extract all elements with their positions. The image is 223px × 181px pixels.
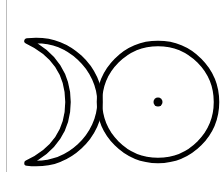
sun-center-dot-icon: [154, 98, 163, 107]
crescent-moon-icon: [27, 41, 100, 164]
moon-and-sun-symbol: [0, 0, 223, 181]
